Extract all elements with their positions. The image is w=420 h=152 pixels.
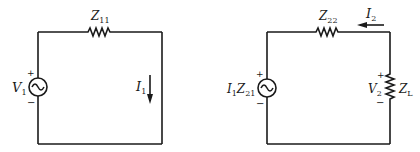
right-circuit: Z22 I1Z21 + − I2 + V2 − ZL (226, 6, 413, 144)
source-plus-sign: + (256, 69, 264, 79)
i1-label: I1 (135, 79, 146, 96)
right-right-wire (386, 32, 394, 144)
v1-plus-sign: + (27, 68, 35, 78)
v1-label: V1 (12, 80, 26, 97)
ac-source-icon (29, 78, 47, 96)
circuit-diagram: Z11 V1 + − I1 Z22 I1Z21 + − I2 (0, 0, 420, 152)
z22-label: Z22 (318, 9, 338, 25)
right-top-wire (267, 28, 390, 36)
i1-arrow-down-icon (147, 75, 153, 104)
left-top-wire (38, 28, 162, 36)
z11-label: Z11 (90, 9, 110, 25)
ac-source-icon (258, 79, 276, 97)
zl-label: ZL (398, 82, 413, 98)
left-circuit: Z11 V1 + − I1 (12, 9, 162, 144)
v2-plus-sign: + (377, 70, 385, 80)
v2-minus-sign: − (376, 97, 384, 108)
i2-label: I2 (365, 6, 376, 23)
i1z21-label: I1Z21 (226, 82, 255, 98)
v1-minus-sign: − (27, 97, 35, 108)
source-minus-sign: − (256, 98, 264, 109)
v2-label: V2 (368, 82, 382, 98)
